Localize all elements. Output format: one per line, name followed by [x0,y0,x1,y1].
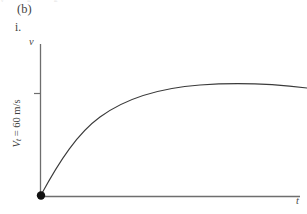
velocity-curve [41,84,307,195]
figure-container: y g g (b) i. v t Vt = 60 m/s [0,0,307,214]
origin-point-marker [37,191,45,199]
plot-area [0,0,307,214]
